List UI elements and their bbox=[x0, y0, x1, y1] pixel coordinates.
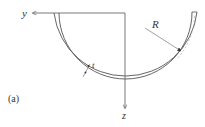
wall-centerline bbox=[178, 16, 195, 58]
thickness-tick-outer bbox=[85, 72, 87, 74]
radius-arrow bbox=[145, 28, 181, 51]
thickness-tick-inner bbox=[88, 65, 90, 67]
outer-wall bbox=[54, 12, 197, 76]
z-axis-label: z bbox=[121, 110, 126, 121]
radius-label: R bbox=[151, 18, 159, 30]
cross-section-diagram: y z R t (a) bbox=[0, 0, 205, 127]
panel-label: (a) bbox=[8, 93, 19, 105]
thickness-label: t bbox=[92, 60, 95, 70]
y-axis-label: y bbox=[21, 7, 27, 19]
